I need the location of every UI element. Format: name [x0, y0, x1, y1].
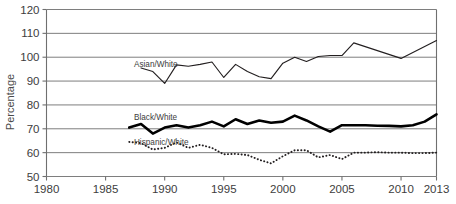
- series-inline-labels: Asian/WhiteBlack/WhiteHispanic/White: [134, 60, 189, 147]
- x-axis-ticks: [47, 177, 437, 181]
- x-tick-label: 1980: [34, 183, 60, 195]
- y-axis-tick-labels: 5060708090100110120: [20, 4, 46, 183]
- x-tick-label: 2013: [424, 183, 450, 195]
- y-tick-label: 80: [27, 99, 40, 111]
- chart-canvas: 5060708090100110120 19801985199019952000…: [0, 0, 456, 204]
- x-axis-tick-labels: 19801985199019952000200520102013: [34, 183, 450, 195]
- x-tick-label: 2005: [329, 183, 355, 195]
- series-line-asian-white: [141, 41, 436, 84]
- y-axis-title: Percentage: [4, 74, 16, 130]
- y-tick-label: 60: [27, 147, 40, 159]
- y-tick-label: 70: [27, 123, 40, 135]
- x-tick-label: 2000: [270, 183, 296, 195]
- y-tick-label: 50: [27, 171, 40, 183]
- series-label-asian-white: Asian/White: [134, 60, 178, 69]
- y-tick-label: 110: [21, 27, 39, 39]
- x-tick-label: 1985: [93, 183, 119, 195]
- series-label-hispanic-white: Hispanic/White: [134, 138, 189, 147]
- y-tick-label: 120: [20, 4, 39, 16]
- series-label-black-white: Black/White: [134, 113, 178, 122]
- y-tick-label: 100: [20, 51, 39, 63]
- line-chart: 5060708090100110120 19801985199019952000…: [0, 0, 456, 204]
- y-tick-label: 90: [27, 75, 40, 87]
- x-tick-label: 2010: [388, 183, 414, 195]
- x-tick-label: 1990: [152, 183, 178, 195]
- x-tick-label: 1995: [211, 183, 237, 195]
